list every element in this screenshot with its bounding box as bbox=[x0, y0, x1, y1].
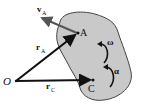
label-rA-sub: A bbox=[41, 48, 46, 54]
point-O-marker bbox=[15, 80, 17, 82]
label-O: O bbox=[3, 75, 11, 87]
rigid-body-diagram: O A C r A r C v A ω α bbox=[0, 0, 141, 107]
position-vector-rC bbox=[16, 80, 90, 81]
label-rC-sub: C bbox=[51, 87, 55, 93]
label-omega: ω bbox=[107, 37, 114, 47]
label-rC: r bbox=[46, 81, 50, 91]
label-A: A bbox=[80, 27, 88, 38]
label-C: C bbox=[88, 83, 95, 94]
label-alpha: α bbox=[114, 66, 119, 76]
point-C-marker bbox=[92, 79, 95, 82]
label-rA: r bbox=[36, 42, 40, 52]
label-vA-sub: A bbox=[42, 10, 47, 16]
